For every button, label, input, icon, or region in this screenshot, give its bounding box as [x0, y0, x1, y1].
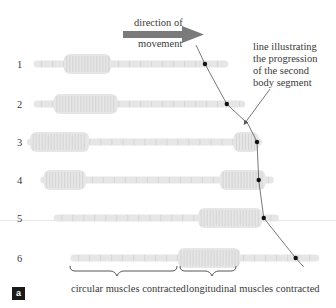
annotation-line-3: of the second — [253, 65, 310, 76]
annotation-line-4: body segment — [253, 77, 312, 88]
worm-stage-3 — [27, 132, 262, 152]
worm-stage-2 — [34, 94, 246, 114]
label-longitudinal-muscles: longitudinal muscles contracted — [186, 283, 320, 294]
stage-number: 3 — [17, 137, 22, 148]
brace-circular — [70, 266, 177, 276]
stage-number: 4 — [17, 175, 23, 186]
worm-stage-5 — [54, 208, 279, 228]
segment-marker — [293, 256, 297, 260]
stage-number: 5 — [17, 213, 22, 224]
annotation-text: line illustrating the progression of the… — [253, 41, 318, 88]
annotation-line-1: line illustrating — [253, 41, 318, 52]
worm-stage-1 — [34, 54, 229, 74]
direction-label-line1: direction of — [134, 17, 183, 28]
annotation-line-2: the progression — [253, 53, 318, 64]
annotation-pointer — [245, 89, 270, 123]
stage-number: 1 — [17, 59, 22, 70]
worm-stage-4 — [40, 170, 274, 190]
arrow-shaft — [123, 31, 183, 38]
direction-label-line2: movement — [138, 38, 182, 49]
stage-number: 6 — [17, 253, 22, 264]
circular-bulge — [64, 54, 111, 74]
worm-body — [34, 61, 229, 68]
segment-marker — [225, 102, 229, 106]
peristalsis-diagram: direction of movement line illustrating … — [0, 0, 336, 308]
worm-stage-6 — [71, 248, 320, 268]
segment-marker — [257, 178, 261, 182]
segment-markers — [203, 62, 298, 260]
panel-label: a — [12, 287, 25, 300]
label-circular-muscles: circular muscles contracted — [71, 283, 187, 294]
segment-marker — [255, 140, 259, 144]
segment-marker — [203, 62, 207, 66]
stage-number: 2 — [17, 99, 22, 110]
segment-marker — [262, 216, 266, 220]
arrow-head-icon — [182, 26, 204, 43]
